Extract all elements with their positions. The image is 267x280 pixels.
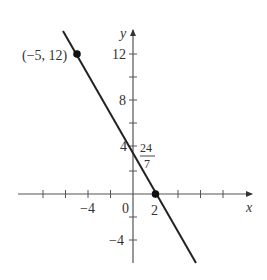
fraction-denominator: 7 [144,157,150,171]
point-2-0 [152,190,160,198]
y-axis-label: y [118,26,127,41]
point-label: (−5, 12) [22,48,68,64]
data-line [63,31,196,263]
line-graph: y x (−5, 12) 12 8 4 −4 −4 0 2 24 7 [0,0,267,280]
intercept-fraction: 24 7 [140,141,155,171]
fraction-numerator: 24 [140,141,152,155]
x-tick-label-0: 0 [122,201,129,216]
x-tick-label-neg4: −4 [80,201,95,216]
x-tick-label-2: 2 [151,203,158,218]
y-tick-label-12: 12 [112,47,126,62]
x-axis-label: x [245,200,253,215]
y-tick-label-4: 4 [120,139,127,154]
point-neg5-12 [73,50,81,58]
y-tick-label-8: 8 [119,93,126,108]
y-tick-label-neg4: −4 [109,233,124,248]
